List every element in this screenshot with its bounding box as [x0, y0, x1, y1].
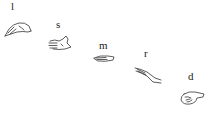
sign-label-d: d — [188, 71, 194, 82]
hand-l-icon — [3, 20, 33, 38]
sign-label-s: s — [56, 19, 60, 30]
sign-label-r: r — [144, 48, 148, 59]
sign-label-m: m — [99, 40, 108, 51]
hand-d-icon — [179, 89, 207, 107]
hand-s-icon — [47, 35, 73, 52]
hand-m-icon — [92, 54, 116, 63]
hand-r-icon — [133, 66, 163, 86]
sign-label-l: l — [11, 1, 14, 12]
